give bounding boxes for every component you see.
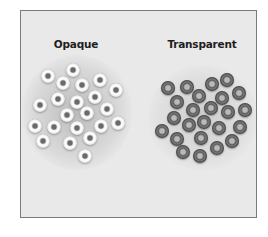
transparent-bead xyxy=(186,103,200,117)
opaque-bead xyxy=(28,119,42,133)
opaque-bead xyxy=(56,76,70,90)
opaque-bead xyxy=(70,121,84,135)
opaque-bead xyxy=(88,90,102,104)
transparent-bead xyxy=(182,118,196,132)
transparent-bead xyxy=(212,121,226,135)
opaque-bead xyxy=(75,78,89,92)
opaque-bead xyxy=(47,120,61,134)
opaque-bead xyxy=(41,69,55,83)
opaque-bead xyxy=(93,73,107,87)
opaque-bead xyxy=(100,102,114,116)
transparent-bead xyxy=(155,124,169,138)
transparent-bead xyxy=(197,115,211,129)
transparent-bead xyxy=(176,145,190,159)
opaque-bead xyxy=(51,92,65,106)
transparent-bead xyxy=(225,134,239,148)
opaque-bead xyxy=(63,136,77,150)
opaque-bead xyxy=(33,98,47,112)
transparent-bead xyxy=(170,95,184,109)
opaque-bead xyxy=(111,116,125,130)
transparent-bead xyxy=(167,111,181,125)
transparent-bead xyxy=(193,149,207,163)
transparent-label: Transparent xyxy=(167,38,236,50)
transparent-bead xyxy=(194,131,208,145)
opaque-bead xyxy=(78,149,92,163)
transparent-bead xyxy=(238,103,252,117)
opaque-label: Opaque xyxy=(54,38,98,50)
transparent-bead xyxy=(220,73,234,87)
opaque-bead xyxy=(36,134,50,148)
opaque-bead xyxy=(94,119,108,133)
opaque-bead xyxy=(80,106,94,120)
transparent-bead xyxy=(161,81,175,95)
transparent-bead xyxy=(170,132,184,146)
opaque-bead xyxy=(66,63,80,77)
transparent-bead xyxy=(233,120,247,134)
transparent-bead xyxy=(215,91,229,105)
transparent-bead xyxy=(221,105,235,119)
transparent-bead xyxy=(204,101,218,115)
transparent-bead xyxy=(192,89,206,103)
opaque-bead xyxy=(109,83,123,97)
transparent-bead xyxy=(232,86,246,100)
opaque-bead xyxy=(83,131,97,145)
opaque-bead xyxy=(60,108,74,122)
transparent-bead xyxy=(210,141,224,155)
transparent-bead xyxy=(205,77,219,91)
